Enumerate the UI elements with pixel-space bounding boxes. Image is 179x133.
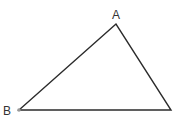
triangle-shape <box>19 24 171 110</box>
triangle-diagram: A B <box>0 0 179 133</box>
vertex-label-a: A <box>112 8 120 22</box>
point-b-marker <box>17 108 21 112</box>
vertex-label-b: B <box>3 104 11 118</box>
